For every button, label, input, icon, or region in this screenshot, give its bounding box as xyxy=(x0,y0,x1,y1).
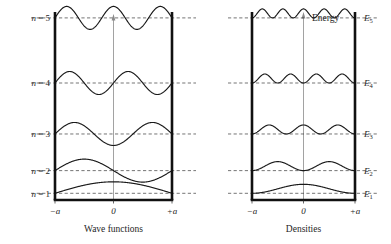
panel-wave-functions: −a0+aWave functions xyxy=(31,6,196,234)
panel-densities: −a0+aDensities xyxy=(228,9,379,234)
quantum-well-figure: −a0+aWave functions−a0+aDensitiesn = 1n … xyxy=(0,0,391,244)
level-label-right-E3: E3 xyxy=(363,129,373,140)
panel-caption-densities: Densities xyxy=(286,224,322,234)
level-label-right-E5: E5 xyxy=(363,13,373,24)
level-label-left-n1: n = 1 xyxy=(31,189,50,199)
x-tick-label-1-wave-functions: 0 xyxy=(111,206,116,216)
x-tick-label-0-densities: −a xyxy=(247,206,258,216)
x-tick-label-2-densities: +a xyxy=(350,206,361,216)
level-label-left-n5: n = 5 xyxy=(31,13,50,23)
center-axis-arrowhead xyxy=(302,12,306,18)
level-label-left-n3: n = 3 xyxy=(31,129,50,139)
level-label-right-E2: E2 xyxy=(363,166,373,177)
panel-caption-wave-functions: Wave functions xyxy=(84,224,143,234)
x-tick-label-0-wave-functions: −a xyxy=(50,206,61,216)
figure-root: −a0+aWave functions−a0+aDensitiesn = 1n … xyxy=(0,0,391,244)
level-label-right-E4: E4 xyxy=(363,78,374,89)
level-label-right-E1: E1 xyxy=(363,189,373,200)
center-axis-arrowhead xyxy=(112,14,116,20)
level-label-left-n2: n = 2 xyxy=(31,166,50,176)
x-tick-label-1-densities: 0 xyxy=(301,206,306,216)
energy-axis-label: Energy xyxy=(312,13,340,23)
level-label-left-n4: n = 4 xyxy=(31,78,50,88)
x-tick-label-2-wave-functions: +a xyxy=(167,206,178,216)
